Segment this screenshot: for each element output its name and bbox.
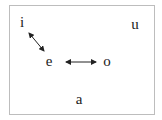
arrows-layer [0, 0, 162, 120]
arrow-i-e-icon [29, 33, 44, 51]
